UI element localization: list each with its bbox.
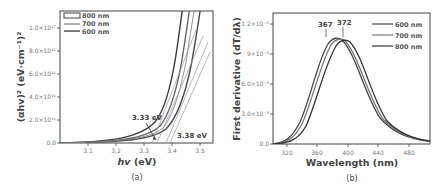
b-annotation-372: 372 [337, 19, 352, 27]
b-ytick-2: 6.0×10⁻³ [241, 80, 269, 87]
a-ylabel: (αhv)² (eV·cm⁻¹)² [15, 32, 26, 123]
a-ytick-0: 0.0 [46, 139, 56, 146]
curve-600nm-b [273, 38, 430, 144]
a-ytick-5: 1.0×10¹⁷ [29, 24, 57, 31]
b-xtick-1: 360 [311, 149, 323, 156]
b-ytick-3: 9×10⁻³ [247, 50, 270, 57]
a-legend: 800 nm 700 nm 600 nm [64, 12, 109, 36]
a-ytick-1: 2.0×10¹⁶ [29, 116, 57, 123]
b-xtick-4: 480 [403, 149, 415, 156]
a-ytick-4: 8.0×10¹⁶ [29, 47, 57, 54]
b-ylabel: First derivative (dT/dλ) [231, 17, 242, 141]
b-ytick-4: 1.2×10⁻² [241, 20, 269, 27]
curve-700nm [60, 5, 190, 143]
curve-800nm [60, 5, 183, 143]
a-xtick-3: 3.4 [167, 147, 177, 154]
a-xtick-0: 3.1 [83, 147, 93, 154]
b-annotation-367: 367 [318, 21, 333, 29]
b-panel-label: (b) [346, 174, 357, 183]
a-annotation-338: 3.38 eV [177, 132, 207, 140]
figure: 0.0 2.0×10¹⁶ 4.0×10¹⁶ 6.0×10¹⁶ 8.0×10¹⁶ … [0, 0, 446, 192]
b-xtick-2: 400 [342, 149, 354, 156]
b-legend-700: 700 nm [395, 32, 422, 40]
b-xtick-0: 320 [281, 149, 293, 156]
a-panel-label: (a) [131, 173, 142, 182]
a-xtick-2: 3.3 [139, 147, 149, 154]
a-legend-800: 800 nm [82, 12, 109, 20]
a-xtick-4: 3.5 [195, 147, 205, 154]
b-xtick-3: 440 [372, 149, 384, 156]
a-ytick-2: 4.0×10¹⁶ [29, 93, 57, 100]
a-ytick-3: 6.0×10¹⁶ [29, 70, 57, 77]
b-ytick-1: 3.0×10⁻³ [241, 110, 269, 117]
a-legend-600: 600 nm [82, 28, 109, 36]
b-legend-800: 800 nm [395, 43, 422, 51]
b-ytick-0: 0.0 [259, 140, 269, 147]
a-xlabel: hv (eV) [118, 156, 157, 167]
b-legend: 600 nm 700 nm 800 nm [372, 21, 422, 51]
panel-b: 0.0 3.0×10⁻³ 6.0×10⁻³ 9×10⁻³ 1.2×10⁻² 32… [231, 13, 430, 183]
b-legend-600: 600 nm [395, 21, 422, 29]
panel-a: 0.0 2.0×10¹⁶ 4.0×10¹⁶ 6.0×10¹⁶ 8.0×10¹⁶ … [15, 5, 213, 182]
a-annotation-333: 3.33 eV [132, 114, 162, 122]
a-xtick-1: 3.2 [111, 147, 121, 154]
a-legend-700: 700 nm [82, 20, 109, 28]
b-xlabel: Wavelength (nm) [306, 157, 398, 168]
